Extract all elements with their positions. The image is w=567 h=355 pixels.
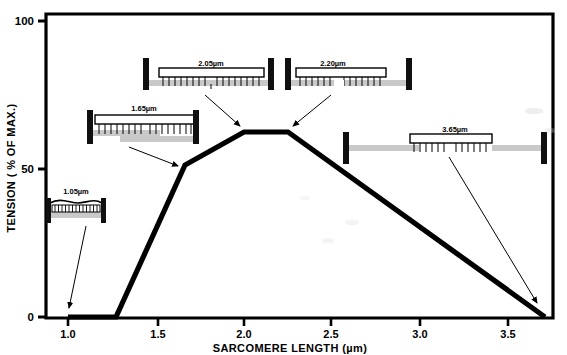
paper-speckle	[525, 108, 543, 114]
leader-arrow-165	[129, 147, 178, 166]
paper-speckle	[322, 238, 334, 243]
leader-arrow-105	[69, 226, 86, 308]
z-line	[46, 198, 51, 223]
leader-arrow-220	[293, 95, 331, 126]
z-line	[541, 132, 547, 164]
x-tick-label-1-0: 1.0	[60, 328, 75, 340]
z-line	[101, 198, 106, 223]
x-tick-label-3-5: 3.5	[500, 328, 515, 340]
z-line	[143, 58, 149, 90]
tension-curve	[68, 132, 545, 317]
chart-svg: 100 50 0 TENSION ( % OF MAX.) 1.0 1.5 2.…	[0, 0, 567, 355]
z-line	[406, 58, 412, 90]
paper-speckle	[545, 128, 555, 133]
inset-165-label: 1.65µm	[131, 104, 157, 113]
paper-speckle	[300, 196, 310, 200]
y-axis: 100 50 0 TENSION ( % OF MAX.)	[5, 15, 46, 323]
inset-365-label: 3.65µm	[442, 125, 468, 134]
z-line	[87, 110, 93, 144]
z-line	[343, 132, 349, 164]
y-tick-label-100: 100	[15, 15, 34, 27]
y-tick-label-0: 0	[28, 311, 34, 323]
z-line	[193, 110, 199, 144]
x-axis: 1.0 1.5 2.0 2.5 3.0 3.5 SARCOMERE LENGTH…	[60, 318, 515, 354]
leader-arrow-205	[205, 95, 240, 126]
inset-105-label: 1.05µm	[63, 187, 89, 196]
paper-speckle	[345, 220, 359, 225]
x-tick-label-3-0: 3.0	[412, 328, 427, 340]
inset-205-label: 2.05µm	[198, 59, 224, 68]
inset-220: 2.20µm	[285, 58, 412, 126]
x-axis-title: SARCOMERE LENGTH (µm)	[213, 342, 368, 354]
y-tick-label-50: 50	[21, 163, 34, 175]
z-line	[285, 58, 291, 90]
inset-165: 1.65µm	[87, 104, 199, 166]
inset-105: 1.05µm	[46, 187, 106, 308]
x-tick-label-2-5: 2.5	[323, 328, 338, 340]
x-tick-label-1-5: 1.5	[150, 328, 165, 340]
inset-365: 3.65µm	[343, 125, 547, 303]
x-tick-label-2-0: 2.0	[236, 328, 251, 340]
plot-frame	[46, 14, 553, 318]
z-line	[268, 58, 274, 90]
figure-canvas: 100 50 0 TENSION ( % OF MAX.) 1.0 1.5 2.…	[0, 0, 567, 355]
y-axis-title: TENSION ( % OF MAX.)	[5, 104, 17, 233]
inset-220-label: 2.20µm	[320, 59, 346, 68]
